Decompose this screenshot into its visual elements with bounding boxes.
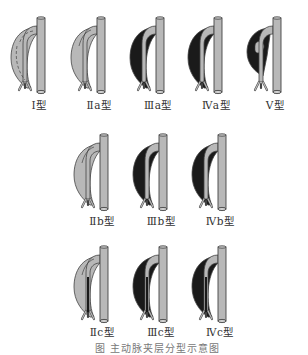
figure-label: Ⅰ型 (31, 97, 46, 112)
vessel-illustration-icon (119, 133, 179, 213)
figure-label: Ⅱb型 (89, 213, 114, 228)
figure-label: Ⅱc型 (90, 324, 115, 339)
figure-label: Ⅱa型 (87, 97, 112, 112)
figure-label: Ⅲa型 (144, 97, 172, 112)
figure-label: Ⅳa型 (202, 97, 230, 112)
figure-type-ivb (178, 133, 238, 213)
vessel-illustration-icon (178, 133, 238, 213)
figure-type-iiic (119, 245, 179, 325)
vessel-illustration-icon (119, 245, 179, 325)
figure-label: Ⅲb型 (147, 213, 175, 228)
figure-type-i (0, 16, 57, 96)
figure-type-iva (174, 16, 234, 96)
vessel-illustration-icon (57, 16, 117, 96)
vessel-illustration-icon (60, 245, 120, 325)
figure-type-ivc (178, 245, 238, 325)
figure-type-iic (60, 245, 120, 325)
figure-type-iiib (119, 133, 179, 213)
figure-type-v (233, 16, 293, 96)
figure-type-iib (60, 133, 120, 213)
vessel-illustration-icon (174, 16, 234, 96)
figure-label: Ⅳb型 (206, 213, 235, 228)
vessel-illustration-icon (233, 16, 293, 96)
figure-label: Ⅴ型 (266, 97, 285, 112)
vessel-illustration-icon (178, 245, 238, 325)
figure-label: Ⅲc型 (147, 324, 175, 339)
figure-type-iiia (116, 16, 176, 96)
figure-label: Ⅳc型 (206, 324, 234, 339)
figure-caption: 图 主动脉夹层分型示意图 (95, 340, 220, 355)
vessel-illustration-icon (60, 133, 120, 213)
figure-type-iia (57, 16, 117, 96)
vessel-illustration-icon (116, 16, 176, 96)
vessel-illustration-icon (0, 16, 57, 96)
